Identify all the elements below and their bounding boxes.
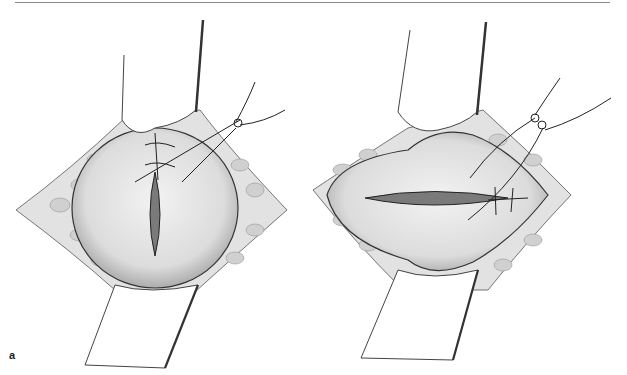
upper-retractor — [398, 22, 486, 131]
surgical-illustration-a — [0, 0, 313, 375]
panel-a: a — [0, 0, 313, 375]
surgical-illustration-b — [313, 0, 627, 375]
panel-label-a: a — [9, 349, 15, 361]
lower-retractor — [361, 270, 478, 360]
panel-b: b — [313, 0, 627, 375]
